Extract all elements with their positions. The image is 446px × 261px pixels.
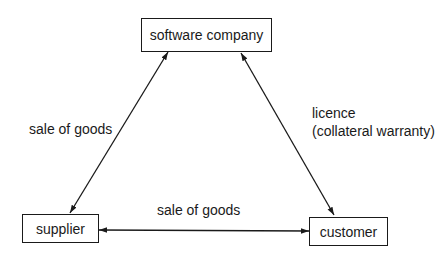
contract-triangle-diagram: software company supplier customer sale … (0, 0, 446, 261)
node-label: customer (320, 224, 378, 240)
edge-label-supplier-software: sale of goods (29, 121, 112, 138)
node-software-company: software company (141, 18, 272, 52)
node-label: supplier (36, 221, 85, 237)
edge-label-licence: licence (312, 105, 356, 122)
node-label: software company (150, 27, 264, 43)
arrow-supplier-customer (99, 230, 309, 231)
node-supplier: supplier (22, 214, 99, 243)
edge-label-supplier-customer: sale of goods (157, 202, 240, 219)
node-customer: customer (309, 217, 388, 246)
edge-label-collateral-warranty: (collateral warranty) (312, 123, 435, 140)
